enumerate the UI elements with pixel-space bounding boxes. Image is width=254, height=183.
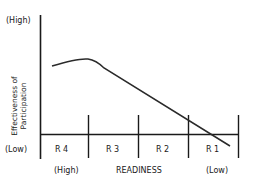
y-high-label: (High) xyxy=(6,16,31,25)
category-r2: R 2 xyxy=(156,145,169,154)
chart-canvas xyxy=(0,0,254,183)
x-axis-title: READINESS xyxy=(116,166,162,175)
category-r4: R 4 xyxy=(55,145,68,154)
x-high-label: (High) xyxy=(54,166,79,175)
x-low-label: (Low) xyxy=(206,166,228,175)
category-r3: R 3 xyxy=(106,145,119,154)
y-low-label: (Low) xyxy=(5,145,27,154)
effectiveness-curve xyxy=(52,59,230,146)
y-title-line1: Effectiveness of xyxy=(10,76,19,136)
category-r1: R 1 xyxy=(206,145,219,154)
y-axis-title: Effectiveness of Participation xyxy=(6,76,32,136)
y-title-line2: Participation xyxy=(19,76,28,136)
